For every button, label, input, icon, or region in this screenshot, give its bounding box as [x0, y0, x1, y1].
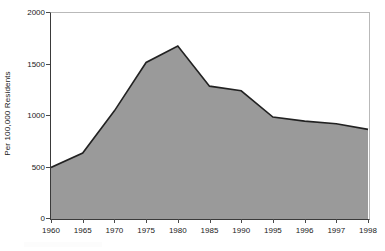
x-axis-tick-mark [210, 219, 211, 223]
x-axis-tick-mark [368, 219, 369, 223]
x-axis-tick-mark [178, 219, 179, 223]
x-axis-tick-mark [83, 219, 84, 223]
x-axis-tick-mark [336, 219, 337, 223]
y-axis-tick-label: 2000 [27, 8, 45, 17]
x-axis-tick-label: 1965 [74, 226, 92, 235]
x-axis-tick-label: 1970 [105, 226, 123, 235]
x-axis-tick-label: 1980 [169, 226, 187, 235]
y-axis-title: Per 100,000 Residents [0, 0, 14, 226]
x-axis-tick-marks [50, 219, 370, 224]
plot-frame [50, 12, 370, 220]
x-axis-tick-labels: 1960196519701975198019851990199519961997… [50, 226, 370, 240]
x-axis-tick-mark [241, 219, 242, 223]
x-axis-tick-mark [305, 219, 306, 223]
x-axis-tick-mark [51, 219, 52, 223]
scan-artifact [24, 242, 102, 247]
y-axis-tick-label: 1000 [27, 111, 45, 120]
chart-container: Per 100,000 Residents 0500100015002000 1… [0, 0, 385, 251]
x-axis-tick-label: 1985 [201, 226, 219, 235]
x-axis-tick-mark [273, 219, 274, 223]
x-axis-tick-label: 1996 [296, 226, 314, 235]
x-axis-tick-label: 1975 [137, 226, 155, 235]
x-axis-tick-label: 1960 [42, 226, 60, 235]
y-axis-tick-label: 1500 [27, 59, 45, 68]
y-axis-title-label: Per 100,000 Residents [3, 71, 12, 156]
x-axis-tick-mark [146, 219, 147, 223]
x-axis-tick-label: 1995 [264, 226, 282, 235]
x-axis-tick-label: 1998 [359, 226, 377, 235]
area-series-svg [51, 13, 369, 219]
x-axis-tick-mark [114, 219, 115, 223]
x-axis-tick-label: 1997 [327, 226, 345, 235]
y-axis-tick-label: 500 [32, 162, 45, 171]
y-axis-tick-labels: 0500100015002000 [14, 0, 48, 226]
x-axis-tick-label: 1990 [232, 226, 250, 235]
plot-area [51, 13, 369, 219]
